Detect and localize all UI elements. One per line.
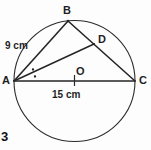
vertex-point-d <box>93 43 95 45</box>
centre-label-o: O <box>76 66 85 77</box>
vertex-label-c: C <box>139 75 147 86</box>
geometry-figure: B D A C O 9 cm 15 cm 3 <box>0 0 151 150</box>
vertex-label-d: D <box>98 34 106 45</box>
angle-mark-dot-lower <box>34 75 36 77</box>
vertex-point-b <box>67 20 69 22</box>
vertex-label-a: A <box>2 75 10 86</box>
measurement-label-ac: 15 cm <box>52 90 80 100</box>
vertex-label-b: B <box>63 5 71 16</box>
measurement-label-ab: 9 cm <box>5 41 28 51</box>
angle-mark-dot-upper <box>32 68 34 70</box>
figure-number-label: 3 <box>1 130 8 143</box>
